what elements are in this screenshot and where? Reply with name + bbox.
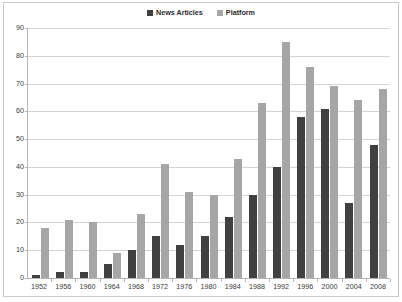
x-axis-tick-label: 2008 bbox=[366, 283, 390, 290]
y-axis-tick-label: 0 bbox=[20, 274, 24, 281]
bar-news-articles-1988[interactable] bbox=[249, 195, 257, 278]
plot-area: 0102030405060708090 bbox=[27, 28, 390, 279]
bar-news-articles-1960[interactable] bbox=[80, 272, 88, 278]
y-axis-tick-label: 20 bbox=[16, 219, 24, 226]
bar-group bbox=[294, 28, 318, 278]
x-axis-tick-label: 1992 bbox=[269, 283, 293, 290]
bar-platform-1964[interactable] bbox=[113, 253, 121, 278]
bar-news-articles-1964[interactable] bbox=[104, 264, 112, 278]
bar-group bbox=[76, 28, 100, 278]
bar-group bbox=[245, 28, 269, 278]
x-axis-tick-label: 1980 bbox=[196, 283, 220, 290]
legend-swatch-icon bbox=[217, 10, 223, 16]
y-axis-tick-label: 80 bbox=[16, 52, 24, 59]
x-axis-tick-label: 1964 bbox=[100, 283, 124, 290]
bar-platform-1956[interactable] bbox=[65, 220, 73, 278]
bar-news-articles-1952[interactable] bbox=[32, 275, 40, 278]
x-axis-tick-label: 1996 bbox=[293, 283, 317, 290]
y-axis-tick-label: 40 bbox=[16, 163, 24, 170]
bar-group bbox=[221, 28, 245, 278]
bar-platform-1968[interactable] bbox=[137, 214, 145, 278]
bars-layer bbox=[28, 28, 390, 278]
bar-platform-1988[interactable] bbox=[258, 103, 266, 278]
bar-platform-2004[interactable] bbox=[354, 100, 362, 278]
bar-news-articles-1984[interactable] bbox=[225, 217, 233, 278]
y-axis-tick-label: 50 bbox=[16, 136, 24, 143]
bar-news-articles-2004[interactable] bbox=[345, 203, 353, 278]
x-axis-tick-label: 1960 bbox=[75, 283, 99, 290]
y-axis-tick-label: 90 bbox=[16, 24, 24, 31]
bar-group bbox=[173, 28, 197, 278]
bar-group bbox=[342, 28, 366, 278]
bar-news-articles-2000[interactable] bbox=[321, 109, 329, 278]
chart-legend: News ArticlesPlatform bbox=[0, 6, 402, 20]
bar-platform-1992[interactable] bbox=[282, 42, 290, 278]
bar-platform-1952[interactable] bbox=[41, 228, 49, 278]
legend-label: News Articles bbox=[156, 9, 203, 16]
bar-group bbox=[52, 28, 76, 278]
bar-news-articles-1976[interactable] bbox=[176, 245, 184, 278]
x-axis-tick-label: 2000 bbox=[317, 283, 341, 290]
bar-news-articles-2008[interactable] bbox=[370, 145, 378, 278]
x-axis-tick-label: 1956 bbox=[51, 283, 75, 290]
bar-chart: News ArticlesPlatform 010203040506070809… bbox=[0, 0, 402, 302]
bar-news-articles-1992[interactable] bbox=[273, 167, 281, 278]
y-axis-tick-label: 30 bbox=[16, 191, 24, 198]
bar-news-articles-1968[interactable] bbox=[128, 250, 136, 278]
legend-entry[interactable]: Platform bbox=[217, 9, 255, 16]
bar-group bbox=[125, 28, 149, 278]
bar-group bbox=[28, 28, 52, 278]
y-axis-tick-label: 60 bbox=[16, 108, 24, 115]
bar-platform-1972[interactable] bbox=[161, 164, 169, 278]
bar-news-articles-1956[interactable] bbox=[56, 272, 64, 278]
x-axis-tick-label: 1968 bbox=[124, 283, 148, 290]
y-axis-tick-label: 10 bbox=[16, 247, 24, 254]
bar-platform-1996[interactable] bbox=[306, 67, 314, 278]
bar-news-articles-1996[interactable] bbox=[297, 117, 305, 278]
y-axis-tick-label: 70 bbox=[16, 80, 24, 87]
x-axis-tick-label: 1976 bbox=[172, 283, 196, 290]
x-axis-tick-label: 1952 bbox=[27, 283, 51, 290]
legend-entry[interactable]: News Articles bbox=[147, 9, 203, 16]
bar-group bbox=[269, 28, 293, 278]
x-axis-tick-label: 1984 bbox=[221, 283, 245, 290]
bar-platform-2008[interactable] bbox=[379, 89, 387, 278]
legend-label: Platform bbox=[226, 9, 255, 16]
bar-platform-1984[interactable] bbox=[234, 159, 242, 278]
bar-platform-1980[interactable] bbox=[210, 195, 218, 278]
bar-group bbox=[197, 28, 221, 278]
bar-news-articles-1980[interactable] bbox=[201, 236, 209, 278]
x-axis-labels: 1952195619601964196819721976198019841988… bbox=[27, 283, 390, 290]
legend-swatch-icon bbox=[147, 10, 153, 16]
bar-group bbox=[366, 28, 390, 278]
x-axis-tick-label: 1988 bbox=[245, 283, 269, 290]
bar-group bbox=[318, 28, 342, 278]
bar-platform-2000[interactable] bbox=[330, 86, 338, 278]
bar-news-articles-1972[interactable] bbox=[152, 236, 160, 278]
bar-platform-1976[interactable] bbox=[185, 192, 193, 278]
bar-group bbox=[149, 28, 173, 278]
x-axis-tick-label: 1972 bbox=[148, 283, 172, 290]
bar-platform-1960[interactable] bbox=[89, 222, 97, 278]
bar-group bbox=[100, 28, 124, 278]
x-axis-tick-label: 2004 bbox=[342, 283, 366, 290]
